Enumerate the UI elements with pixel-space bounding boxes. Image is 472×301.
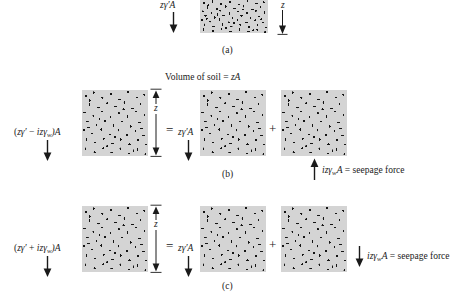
seepage-force-figure: zγ′A z (a) Volume of soil = zA (zγ′ − iz… — [0, 0, 472, 301]
panel-b-middle-force-arrow — [182, 140, 195, 162]
panel-b-equals-sign: = — [166, 122, 173, 138]
panel-c-caption: (c) — [222, 281, 233, 291]
panel-c-depth-label: z — [153, 220, 159, 230]
soil-block-b-1 — [82, 90, 148, 156]
panel-a-depth-arrow — [276, 10, 289, 35]
panel-b-middle-force-label: zγ′A — [178, 128, 193, 138]
panel-b-caption: (b) — [222, 169, 233, 179]
panel-b-left-force-arrow — [41, 140, 54, 162]
panel-c-seepage-label: izγwA = seepage force — [367, 252, 450, 263]
panel-c-middle-force-arrow — [182, 256, 195, 278]
soil-block-c-1 — [82, 206, 148, 272]
panel-c-plus-sign: + — [269, 237, 276, 253]
panel-b-seepage-arrow-up — [308, 158, 321, 180]
soil-block-b-3 — [281, 90, 347, 156]
panel-c-left-force-label: (zγ′ + izγw)A — [14, 244, 60, 255]
volume-of-soil-note: Volume of soil = zA — [165, 73, 240, 83]
panel-b-seepage-label: izγwA = seepage force — [322, 166, 405, 177]
panel-c-middle-force-label: zγ′A — [178, 244, 193, 254]
panel-b-depth-label: z — [153, 104, 159, 114]
panel-c-seepage-arrow-down — [353, 246, 366, 268]
panel-c-left-force-arrow — [41, 256, 54, 278]
panel-a-caption: (a) — [222, 45, 233, 55]
panel-b-left-force-label: (zγ′ − izγw)A — [14, 128, 60, 139]
panel-a-left-force-label: zγ′A — [160, 1, 175, 11]
panel-b-depth-dimension — [149, 88, 163, 158]
soil-block-c-2 — [200, 206, 266, 272]
panel-c-equals-sign: = — [166, 238, 173, 254]
panel-b-plus-sign: + — [269, 121, 276, 137]
panel-a-left-force-arrow — [167, 12, 180, 34]
soil-block-b-2 — [200, 90, 266, 156]
panel-c-depth-dimension — [149, 204, 163, 274]
soil-block-c-3 — [281, 206, 347, 272]
soil-block-a-1 — [200, 0, 268, 33]
